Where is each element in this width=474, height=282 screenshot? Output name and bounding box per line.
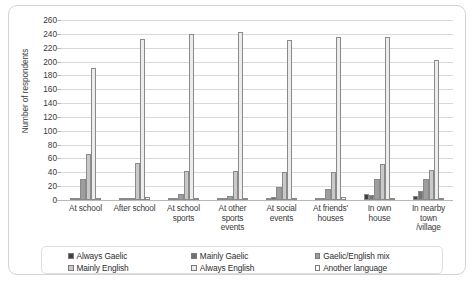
legend-swatch-icon (191, 253, 197, 259)
legend-label: Mainly English (77, 263, 129, 273)
bar (341, 197, 346, 200)
bar (434, 60, 439, 200)
bar (287, 40, 292, 200)
bar-group (61, 20, 110, 200)
bar (439, 198, 444, 200)
bar (243, 198, 248, 200)
y-tick-label: 140 (43, 98, 57, 108)
x-axis-label: In ownhouse (355, 204, 404, 233)
legend-label: Always English (200, 263, 254, 273)
y-tick-label: 120 (43, 112, 57, 122)
legend-entry[interactable]: Another language (315, 263, 438, 273)
x-axis-category-labels: At schoolAfter schoolAt schoolsportsAt o… (61, 204, 453, 233)
y-tick-label: 40 (48, 167, 57, 177)
bar-group (404, 20, 453, 200)
bar (194, 198, 199, 200)
y-tick-label: 200 (43, 57, 57, 67)
y-tick-label: 80 (48, 140, 57, 150)
bar-group (159, 20, 208, 200)
chart-frame: Number of respondents 020406080100120140… (8, 5, 466, 275)
bar-group (306, 20, 355, 200)
bar (390, 198, 395, 200)
bar-group (208, 20, 257, 200)
y-tick-label: 180 (43, 70, 57, 80)
bar (385, 37, 390, 200)
legend-label: Gaelic/English mix (323, 251, 389, 261)
legend-entry[interactable]: Mainly English (68, 263, 191, 273)
bar (189, 34, 194, 200)
bar (292, 198, 297, 200)
bar (140, 39, 145, 200)
y-tick-label: 260 (43, 15, 57, 25)
x-axis-label: At socialevents (257, 204, 306, 233)
x-axis-label: At schoolsports (159, 204, 208, 233)
legend-swatch-icon (68, 253, 74, 259)
y-tick-label: 160 (43, 84, 57, 94)
y-tick-label: 220 (43, 43, 57, 53)
x-axis-label: At othersportsevents (208, 204, 257, 233)
bar-group (257, 20, 306, 200)
x-axis-label: After school (110, 204, 159, 233)
legend-swatch-icon (315, 253, 321, 259)
bars-layer (61, 20, 453, 200)
bar (238, 32, 243, 200)
legend-swatch-icon (191, 265, 197, 271)
y-tick-label: 240 (43, 29, 57, 39)
bar (336, 37, 341, 200)
bar-group (355, 20, 404, 200)
legend-swatch-icon (315, 265, 321, 271)
x-axis-label: At school (61, 204, 110, 233)
bar (91, 68, 96, 200)
legend: Always GaelicMainly GaelicGaelic/English… (41, 246, 443, 274)
y-tick-label: 20 (48, 181, 57, 191)
legend-entries: Always GaelicMainly GaelicGaelic/English… (42, 249, 442, 274)
bar-group (110, 20, 159, 200)
legend-swatch-icon (68, 265, 74, 271)
y-axis-tick-labels: 020406080100120140160180200220240260 (27, 20, 57, 200)
plot-region: Number of respondents 020406080100120140… (9, 6, 467, 238)
legend-entry[interactable]: Always English (191, 263, 314, 273)
y-tick-mark (57, 200, 61, 201)
plot-area (61, 20, 453, 201)
legend-label: Mainly Gaelic (200, 251, 249, 261)
legend-entry[interactable]: Gaelic/English mix (315, 251, 438, 261)
y-tick-label: 60 (48, 153, 57, 163)
bar (145, 197, 150, 200)
y-tick-label: 100 (43, 126, 57, 136)
bar (96, 198, 101, 200)
legend-label: Another language (323, 263, 387, 273)
legend-entry[interactable]: Always Gaelic (68, 251, 191, 261)
x-axis-label: In nearbytown/village (404, 204, 453, 233)
x-axis-label: At friends'houses (306, 204, 355, 233)
legend-entry[interactable]: Mainly Gaelic (191, 251, 314, 261)
legend-label: Always Gaelic (77, 251, 128, 261)
